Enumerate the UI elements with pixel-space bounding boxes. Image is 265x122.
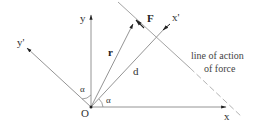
force-arrow: [136, 20, 144, 28]
origin-label: O: [81, 107, 89, 119]
position-vector-label: r: [108, 46, 113, 58]
angle-arc-left: [82, 95, 91, 99]
force-label: F: [147, 12, 154, 24]
angle-left-label: α: [80, 84, 85, 94]
origin-point: [90, 106, 93, 109]
angle-arc-right: [99, 99, 103, 107]
force-moment-diagram: y x y' x' O r F d α α line of action of …: [0, 0, 265, 122]
x-prime-axis: [91, 28, 165, 107]
angle-right-label: α: [106, 95, 111, 105]
y-axis-label: y: [80, 12, 86, 24]
line-of-action-text-2: of force: [204, 63, 236, 74]
line-of-action-dashed: [190, 68, 242, 117]
y-prime-axis: [27, 48, 91, 107]
y-prime-axis-label: y': [17, 36, 25, 48]
position-vector-r: [91, 24, 133, 107]
x-axis-label: x: [224, 110, 230, 122]
distance-label: d: [133, 65, 139, 77]
x-prime-arrow: [163, 24, 170, 30]
x-prime-axis-label: x': [172, 11, 180, 23]
line-of-action-text-1: line of action: [191, 50, 244, 61]
